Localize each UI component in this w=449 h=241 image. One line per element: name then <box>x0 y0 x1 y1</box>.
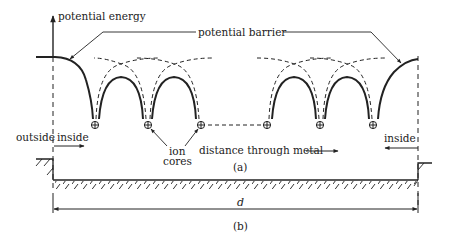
ion-core-icon <box>369 121 376 128</box>
metal-surface-right-step <box>418 163 432 180</box>
arch-solid <box>325 77 369 119</box>
ion-cores-label-line2: cores <box>163 155 192 167</box>
potential-energy-diagram: potential energy <box>0 0 449 241</box>
ion-core-icon <box>316 121 323 128</box>
panel-a: potential energy <box>16 10 418 208</box>
distance-label: distance through metal <box>199 144 324 156</box>
ion-core-icon <box>144 121 151 128</box>
arch-solid <box>152 77 196 119</box>
axis-label: potential energy <box>58 10 146 22</box>
barrier-leader-left <box>70 32 196 59</box>
ion-core-icon <box>263 121 270 128</box>
arch-solid <box>99 77 143 119</box>
metal-hatching <box>55 181 416 189</box>
ion-core-icon <box>197 121 204 128</box>
right-barrier-curve <box>378 59 418 119</box>
arch-solid <box>272 77 316 119</box>
left-barrier-curve <box>36 57 93 119</box>
ion-cores-leader-left <box>151 129 167 146</box>
length-label: d <box>237 196 244 209</box>
barrier-label: potential barrier <box>198 26 287 38</box>
ion-cores <box>91 121 376 128</box>
ion-core-icon <box>91 121 98 128</box>
outside-label: outside <box>16 131 55 143</box>
metal-surface-left-step <box>36 159 53 180</box>
panel-b-label: (b) <box>233 220 248 232</box>
inside-right-label: inside <box>384 132 416 144</box>
inside-left-label: inside <box>57 131 89 143</box>
ion-cores-leader-right <box>185 129 198 146</box>
panel-a-label: (a) <box>233 161 247 173</box>
dashed-ion-potentials-right <box>257 58 385 119</box>
